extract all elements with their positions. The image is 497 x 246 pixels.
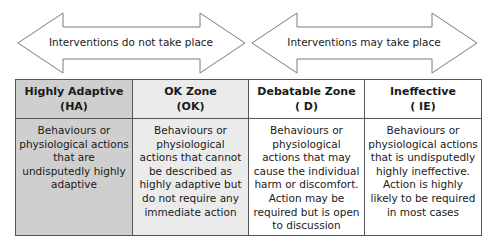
zone-header-d: Debatable Zone( D) [249,80,365,119]
zone-header-ha: Highly Adaptive(HA) [16,80,133,119]
arrow-label-no-intervention: Interventions do not take place [49,36,213,48]
zone-description-ha: Behaviours or physiological actions that… [16,119,133,236]
zone-title: Highly Adaptive [25,85,124,98]
zone-abbr: (OK) [177,100,205,113]
zone-abbr: ( IE) [410,100,436,113]
zone-title: Debatable Zone [257,85,355,98]
zone-title: Ineffective [390,85,456,98]
zone-description-ok: Behaviours or physiological actions that… [133,119,249,236]
zone-abbr: (HA) [60,100,88,113]
zone-header-ie: Ineffective( IE) [365,80,482,119]
zone-header-ok: OK Zone(OK) [133,80,249,119]
zones-header-row: Highly Adaptive(HA) OK Zone(OK) Debatabl… [16,80,482,119]
zones-table: Highly Adaptive(HA) OK Zone(OK) Debatabl… [15,79,482,236]
zone-abbr: ( D) [295,100,318,113]
zone-description-d: Behaviours or physiological actions that… [249,119,365,236]
arrow-label-may-intervene: Interventions may take place [287,36,440,48]
zone-description-ie: Behaviours or physiological actions that… [365,119,482,236]
zones-description-row: Behaviours or physiological actions that… [16,119,482,236]
zone-title: OK Zone [164,85,217,98]
